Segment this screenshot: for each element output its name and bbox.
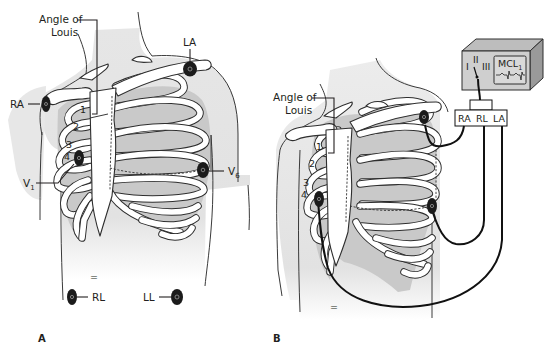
monitor-top: [462, 39, 543, 51]
angle-of-louis-label-b-line2: Louis: [285, 104, 312, 116]
panel-label-a: A: [38, 333, 46, 344]
rib-number-1-b: 1: [316, 141, 322, 152]
rib-number-2-b: 2: [309, 158, 315, 169]
angle-of-louis-label-b-line1: Angle of: [273, 91, 317, 103]
rl-label-a: RL: [92, 291, 105, 303]
rib-number-4-a: 4: [64, 151, 70, 162]
angle-of-louis-label-a-line1: Angle of: [39, 13, 83, 25]
lead-option-i: I: [466, 61, 469, 72]
electrode-v6-b: [427, 198, 437, 214]
panel-a: 1 2 3 4 = Angle of Louis LA RA: [8, 12, 250, 344]
rib-number-4-b: 4: [301, 189, 307, 200]
cable-junction: [470, 100, 492, 110]
navel-mark-b: =: [330, 301, 338, 312]
rib-number-3-a: 3: [66, 139, 72, 150]
ecg-electrode-placement-figure: 1 2 3 4 = Angle of Louis LA RA: [0, 0, 558, 352]
electrode-rl-a: [67, 289, 77, 305]
electrode-la-a: [183, 62, 197, 77]
navel-mark-a: =: [90, 271, 98, 282]
angle-of-louis-label-a-line2: Louis: [51, 26, 78, 38]
connector-label-rl: RL: [476, 113, 489, 124]
lead-option-iii: III: [482, 61, 490, 72]
lead-option-ii: II: [473, 54, 479, 65]
electrode-v1-b: [314, 191, 324, 207]
rib-number-1-a: 1: [80, 104, 86, 115]
electrode-shoulder-b: [419, 110, 429, 124]
electrode-v6-a: [197, 162, 209, 178]
la-label-a: LA: [183, 36, 197, 48]
electrode-ra-a: [42, 96, 51, 112]
ra-label-a: RA: [10, 98, 25, 110]
panel-b: 1 2 3 4 = Angle of Louis I II III MCL1: [273, 39, 543, 344]
rib-number-3-b: 3: [303, 177, 309, 188]
ecg-monitor: I II III MCL1: [462, 39, 543, 90]
electrode-ll-a: [171, 289, 183, 305]
ll-label-a: LL: [143, 291, 155, 303]
connector-label-la: LA: [493, 113, 506, 124]
electrode-v1-a: [74, 150, 84, 166]
panel-label-b: B: [273, 333, 281, 344]
rib-number-2-a: 2: [73, 121, 79, 132]
connector-label-ra: RA: [458, 113, 471, 124]
